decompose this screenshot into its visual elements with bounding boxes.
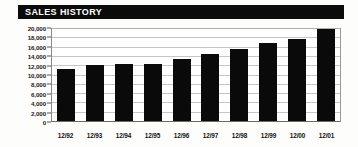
bar-slot — [254, 28, 283, 121]
y-axis-label: 8,000 — [31, 81, 46, 88]
bar-12-93[interactable] — [86, 65, 104, 121]
bar-slot — [196, 28, 225, 121]
bar-slot — [225, 28, 254, 121]
x-axis-slot: 12/96 — [167, 124, 196, 138]
page-title: SALES HISTORY — [18, 8, 102, 17]
bar-12-97[interactable] — [201, 54, 219, 121]
bar-12-92[interactable] — [57, 69, 75, 121]
y-axis-label: 18,000 — [28, 34, 46, 41]
x-axis-label: 12/01 — [319, 132, 335, 139]
x-axis-slot: 12/01 — [312, 124, 341, 138]
x-axis-label: 12/00 — [290, 132, 306, 139]
bar-slot — [81, 28, 110, 121]
bar-12-96[interactable] — [173, 59, 191, 121]
x-axis-label: 12/93 — [87, 132, 103, 139]
x-axis-slot: 12/95 — [138, 124, 167, 138]
bar-12-98[interactable] — [230, 49, 248, 121]
y-axis-label: 4,000 — [31, 100, 46, 107]
y-axis-label: 20,000 — [28, 25, 46, 32]
x-axis-slot: 12/97 — [196, 124, 225, 138]
x-axis-slot: 12/92 — [51, 124, 80, 138]
bar-12-00[interactable] — [288, 39, 306, 121]
bar-slot — [311, 28, 340, 121]
y-axis-label: 16,000 — [28, 43, 46, 50]
x-axis-slot: 12/94 — [109, 124, 138, 138]
y-axis-label: 12,000 — [28, 62, 46, 69]
bar-slot — [52, 28, 81, 121]
chart-container: 02,0004,0006,0008,00010,00012,00014,0001… — [18, 24, 344, 142]
bar-slot — [282, 28, 311, 121]
bar-slot — [110, 28, 139, 121]
y-axis-label: 10,000 — [28, 72, 46, 79]
x-axis-label: 12/92 — [58, 132, 74, 139]
bar-12-01[interactable] — [317, 29, 335, 121]
y-axis: 02,0004,0006,0008,00010,00012,00014,0001… — [18, 28, 51, 122]
x-axis-label: 12/98 — [232, 132, 248, 139]
plot-area — [51, 28, 341, 122]
x-axis-slot: 12/99 — [254, 124, 283, 138]
bar-12-95[interactable] — [144, 64, 162, 121]
bar-series — [52, 28, 340, 121]
x-axis-slot: 12/98 — [225, 124, 254, 138]
x-axis-label: 12/96 — [174, 132, 190, 139]
x-axis-label: 12/95 — [145, 132, 161, 139]
y-axis-label: 6,000 — [31, 90, 46, 97]
x-axis-label: 12/97 — [203, 132, 219, 139]
sales-history-chart-page: SALES HISTORY 02,0004,0006,0008,00010,00… — [0, 0, 358, 147]
x-axis-slot: 12/00 — [283, 124, 312, 138]
x-axis: 12/9212/9312/9412/9512/9612/9712/9812/99… — [51, 124, 341, 138]
bar-12-99[interactable] — [259, 43, 277, 121]
x-axis-slot: 12/93 — [80, 124, 109, 138]
bar-12-94[interactable] — [115, 64, 133, 121]
chart-title-banner: SALES HISTORY — [18, 5, 344, 19]
x-axis-label: 12/94 — [116, 132, 132, 139]
y-axis-label: 14,000 — [28, 53, 46, 60]
y-axis-label: 2,000 — [31, 109, 46, 116]
bar-slot — [138, 28, 167, 121]
y-axis-label: 0 — [43, 119, 46, 126]
bar-slot — [167, 28, 196, 121]
x-axis-label: 12/99 — [261, 132, 277, 139]
